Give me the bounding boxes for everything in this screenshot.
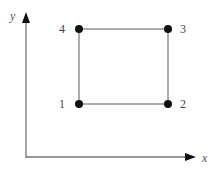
vertex-label-1: 1 (59, 97, 65, 111)
square-edges (79, 29, 168, 104)
vertices: 1 2 3 4 (59, 22, 186, 111)
y-axis-label: y (9, 9, 16, 23)
vertex-label-2: 2 (180, 97, 186, 111)
vertex-4 (75, 25, 83, 33)
vertex-3 (164, 25, 172, 33)
axes: y x (9, 9, 208, 165)
vertex-label-4: 4 (59, 22, 65, 36)
diagram-canvas: y x 1 2 3 4 (0, 0, 220, 169)
square (79, 29, 168, 104)
y-axis-arrow-icon (22, 12, 30, 23)
x-axis-arrow-icon (185, 153, 196, 161)
vertex-1 (75, 100, 83, 108)
vertex-2 (164, 100, 172, 108)
vertex-label-3: 3 (180, 22, 186, 36)
x-axis-label: x (201, 151, 208, 165)
